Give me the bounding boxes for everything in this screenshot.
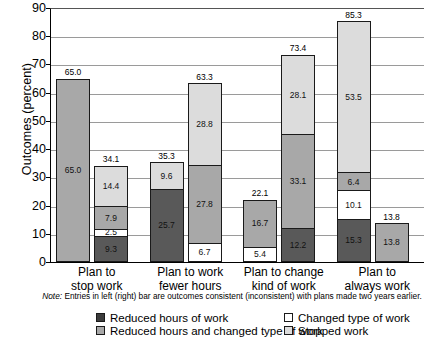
segment-value-label: 7.9 xyxy=(105,214,117,223)
y-tick-label: 80 xyxy=(2,30,46,43)
legend-item-changed_type[interactable]: Changed type of work xyxy=(284,311,410,324)
x-category-label: Plan to workfewer hours xyxy=(144,266,238,293)
legend-item-reduced_hours[interactable]: Reduced hours of work xyxy=(96,311,284,324)
x-category-line: Plan to xyxy=(331,266,425,280)
segment-value-label: 6.7 xyxy=(199,248,211,257)
legend-item-stopped_work[interactable]: Stopped work xyxy=(284,324,368,337)
bar-total-label: 34.1 xyxy=(103,155,120,164)
bar-group: 65.065.034.114.47.92.59.3 xyxy=(50,8,144,262)
segment-value-label: 5.4 xyxy=(254,250,266,259)
x-axis-line xyxy=(50,262,424,263)
bar-total-label: 22.1 xyxy=(252,189,269,198)
bar-segment[interactable]: 9.3 xyxy=(94,236,128,262)
y-tick-label: 30 xyxy=(2,171,46,184)
segment-value-label: 28.1 xyxy=(290,91,307,100)
segment-value-label: 25.7 xyxy=(158,221,175,230)
segment-value-label: 53.5 xyxy=(345,93,362,102)
bar-segment[interactable]: 28.8 xyxy=(188,83,222,164)
chart-legend: Reduced hours of workChanged type of wor… xyxy=(96,311,426,337)
bar-segment[interactable]: 16.7 xyxy=(243,200,277,247)
segment-value-label: 15.3 xyxy=(345,236,362,245)
legend-swatch-reduced_and_changed xyxy=(96,326,105,335)
segment-value-label: 10.1 xyxy=(345,201,362,210)
stacked-bar-inconsistent[interactable]: 13.8 xyxy=(375,223,409,262)
segment-value-label: 6.4 xyxy=(348,178,360,187)
legend-swatch-changed_type xyxy=(284,313,293,322)
bar-segment[interactable]: 28.1 xyxy=(281,55,315,134)
y-tick-label: 50 xyxy=(2,115,46,128)
bar-total-label: 35.3 xyxy=(158,152,175,161)
legend-label: Reduced hours of work xyxy=(110,312,228,324)
bar-segment[interactable]: 6.7 xyxy=(188,243,222,262)
x-category-label: Plan to changekind of work xyxy=(237,266,331,293)
bar-group: 35.39.625.763.328.827.86.7 xyxy=(144,8,238,262)
x-category-line: Plan to xyxy=(50,266,144,280)
segment-value-label: 9.3 xyxy=(105,245,117,254)
note-prefix: Note: xyxy=(42,291,62,301)
stacked-bar-inconsistent[interactable]: 14.47.92.59.3 xyxy=(94,166,128,262)
bar-total-label: 13.8 xyxy=(383,213,400,222)
segment-value-label: 13.8 xyxy=(383,238,400,247)
segment-value-label: 27.8 xyxy=(196,200,213,209)
bar-segment[interactable]: 5.4 xyxy=(243,247,277,262)
bar-segment[interactable]: 10.1 xyxy=(337,190,371,219)
stacked-bar-consistent[interactable]: 9.625.7 xyxy=(150,162,184,262)
stacked-bar-consistent[interactable]: 16.75.4 xyxy=(243,200,277,262)
bar-segment[interactable]: 25.7 xyxy=(150,189,184,262)
bar-segment[interactable]: 7.9 xyxy=(94,206,128,228)
bar-segment[interactable]: 6.4 xyxy=(337,172,371,190)
legend-item-reduced_and_changed[interactable]: Reduced hours and changed type of work xyxy=(96,324,284,337)
bar-segment[interactable]: 12.2 xyxy=(281,228,315,262)
stacked-bar-consistent[interactable]: 65.0 xyxy=(56,79,90,262)
bar-total-label: 65.0 xyxy=(65,68,82,77)
y-tick-mark xyxy=(46,262,50,263)
x-category-line: Plan to change xyxy=(237,266,331,280)
stacked-bar-inconsistent[interactable]: 28.133.112.2 xyxy=(281,55,315,262)
bar-segment[interactable]: 27.8 xyxy=(188,165,222,243)
segment-value-label: 16.7 xyxy=(252,219,269,228)
x-category-label: Plan tostop work xyxy=(50,266,144,293)
segment-value-label: 9.6 xyxy=(161,172,173,181)
bar-segment[interactable]: 13.8 xyxy=(375,223,409,262)
bar-group: 22.116.75.473.428.133.112.2 xyxy=(237,8,331,262)
y-tick-label: 90 xyxy=(2,2,46,15)
bar-group: 85.353.56.410.115.313.813.8 xyxy=(331,8,425,262)
legend-row: Reduced hours of workChanged type of wor… xyxy=(96,311,426,324)
bar-segment[interactable]: 15.3 xyxy=(337,219,371,262)
y-tick-label: 20 xyxy=(2,200,46,213)
bar-segment[interactable]: 2.5 xyxy=(94,229,128,236)
y-tick-label: 70 xyxy=(2,58,46,71)
y-tick-label: 0 xyxy=(2,256,46,269)
legend-label: Stopped work xyxy=(298,325,368,337)
stacked-bar-inconsistent[interactable]: 28.827.86.7 xyxy=(188,83,222,262)
segment-value-label: 2.5 xyxy=(105,229,117,236)
segment-value-label: 12.2 xyxy=(290,241,307,250)
bar-total-label: 63.3 xyxy=(196,73,213,82)
segment-value-label: 14.4 xyxy=(103,182,120,191)
bar-total-label: 73.4 xyxy=(290,44,307,53)
x-category-line: Plan to work xyxy=(144,266,238,280)
y-tick-label: 40 xyxy=(2,143,46,156)
chart-note: Note: Entries in left (right) bar are ou… xyxy=(36,291,428,301)
y-tick-label: 60 xyxy=(2,87,46,100)
segment-value-label: 28.8 xyxy=(196,120,213,129)
note-text: Entries in left (right) bar are outcomes… xyxy=(62,291,422,301)
legend-label: Changed type of work xyxy=(298,312,410,324)
y-tick-label: 10 xyxy=(2,228,46,241)
bar-segment[interactable]: 53.5 xyxy=(337,21,371,172)
segment-value-label: 33.1 xyxy=(290,177,307,186)
bar-groups: 65.065.034.114.47.92.59.335.39.625.763.3… xyxy=(50,8,424,262)
bar-segment[interactable]: 65.0 xyxy=(56,79,90,262)
legend-swatch-stopped_work xyxy=(284,326,293,335)
bar-segment[interactable]: 14.4 xyxy=(94,166,128,207)
segment-value-label: 65.0 xyxy=(65,166,82,175)
x-category-label: Plan toalways work xyxy=(331,266,425,293)
bar-segment[interactable]: 9.6 xyxy=(150,162,184,189)
legend-swatch-reduced_hours xyxy=(96,313,105,322)
bar-total-label: 85.3 xyxy=(345,11,362,20)
legend-row: Reduced hours and changed type of workSt… xyxy=(96,324,426,337)
stacked-bar-consistent[interactable]: 53.56.410.115.3 xyxy=(337,21,371,262)
bar-segment[interactable]: 33.1 xyxy=(281,134,315,227)
